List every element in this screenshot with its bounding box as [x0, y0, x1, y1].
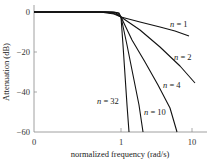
label-n4: n = 4	[163, 80, 181, 90]
y-tick-label: −60	[17, 127, 30, 137]
label-n1: n = 1	[170, 19, 188, 29]
curve-n1	[34, 12, 189, 36]
label-n10: n = 10	[144, 107, 166, 117]
curves	[34, 12, 195, 132]
x-tick-label: 10	[188, 137, 197, 147]
label-n2: n = 2	[174, 52, 192, 62]
y-tick-label: −20	[17, 47, 30, 57]
curve-n32	[34, 12, 129, 132]
y-tick-label: −40	[17, 87, 30, 97]
x-tick-label: 1	[119, 137, 123, 147]
x-tick-label: 0	[32, 137, 36, 147]
y-axis-label: Attenuation (dB)	[1, 43, 11, 101]
label-n32: n = 32	[97, 96, 119, 106]
attenuation-chart: 0 −20 −40 −60 0 1 10 normalized frequenc…	[0, 0, 210, 160]
x-axis-label: normalized frequency (rad/s)	[71, 149, 170, 159]
y-tick-label: 0	[26, 7, 30, 17]
